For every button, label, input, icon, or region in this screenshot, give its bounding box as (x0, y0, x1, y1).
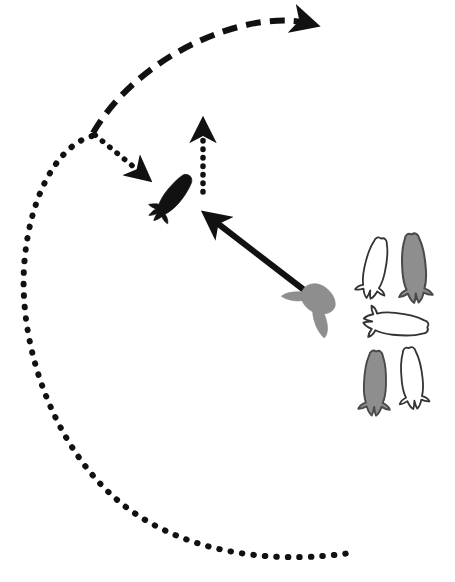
solid-approach-arrow (208, 216, 308, 293)
shoal-fish-5 (394, 346, 430, 411)
dark-fish-prey (143, 167, 200, 229)
shoal-fish-4 (358, 350, 392, 416)
dotted-sweep-arc (24, 136, 350, 557)
shoal-fish-2 (395, 232, 433, 303)
dotted-attack-vector (95, 135, 146, 177)
dashed-arc-trajectory (93, 21, 312, 133)
figure-canvas (0, 0, 455, 582)
figure-root (0, 0, 455, 582)
shoal-fish-3 (362, 305, 430, 343)
animal-layer (143, 167, 345, 339)
fish-shoal-group (354, 232, 433, 416)
trajectory-layer (24, 21, 350, 558)
shoal-fish-1 (354, 235, 396, 302)
gray-fish-predator (273, 272, 344, 338)
